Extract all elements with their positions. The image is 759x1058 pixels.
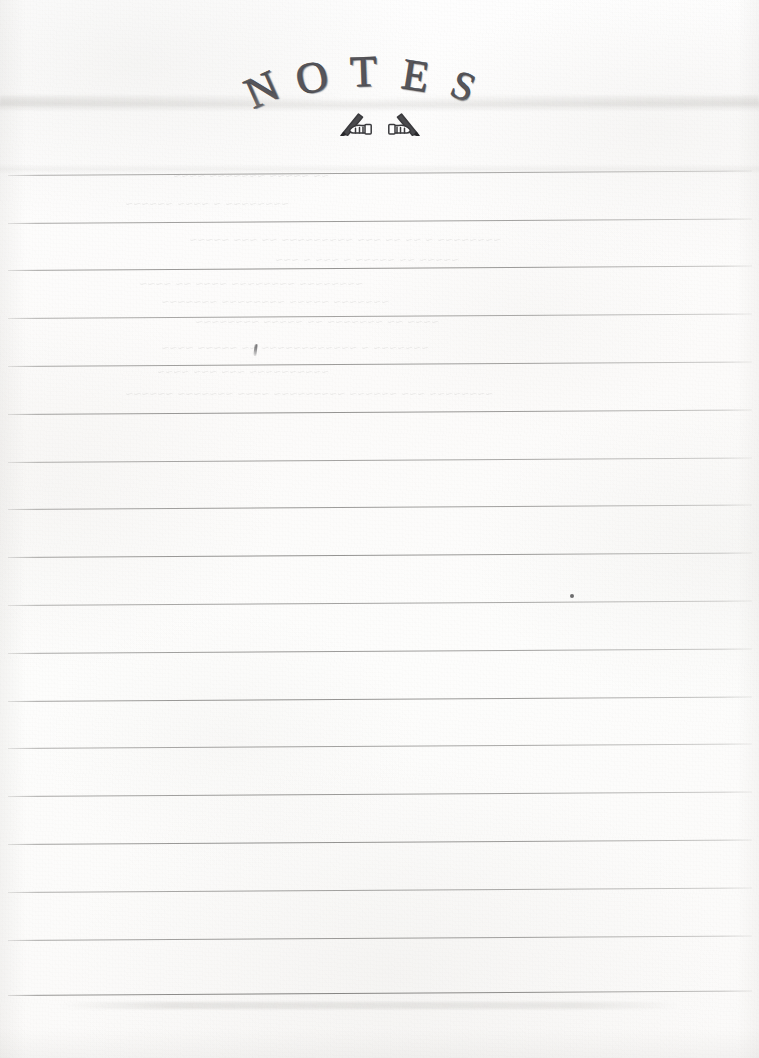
- showthrough-line: ~~~~~ ~~ ~~~~~ ~ ~~~ ~ ~~~: [275, 252, 459, 267]
- paper-grain-texture: [0, 0, 759, 1058]
- showthrough-line: ~~~~~~~~ ~ ~~ ~~ ~~~ ~~~~~~~~~ ~~ ~~~ ~~…: [189, 232, 501, 247]
- ruled-line: [8, 265, 752, 271]
- hand-writing-pen-icon-right: [387, 110, 421, 136]
- bottom-smudge: [60, 1002, 680, 1009]
- title-letter-s: S: [445, 63, 481, 108]
- title-letter-o: O: [291, 53, 332, 103]
- notes-page: ~~ ~~~~~ ~~~~~~~ ~~~~~~~~~~~~ ~ ~~~~ ~~~…: [0, 0, 759, 1058]
- pen-tick-mark: [253, 344, 257, 356]
- ruled-line: [8, 361, 752, 367]
- hand-writing-pen-icon-left: [339, 110, 373, 136]
- ruled-line: [8, 218, 752, 224]
- ruled-line: [8, 648, 752, 654]
- showthrough-line: ~~~~~~~~ ~ ~~~~ ~~~~~~: [125, 196, 289, 211]
- title-letter-t: T: [349, 50, 377, 95]
- ruled-line: [8, 170, 752, 176]
- showthrough-line: ~~~~ ~~ ~~~~~~~ ~~ ~~~~~ ~~~~~~~~: [195, 314, 439, 329]
- scan-band-secondary: [0, 164, 759, 174]
- ink-speck: [570, 594, 574, 598]
- ruled-line: [8, 696, 752, 702]
- title-icons-group: [339, 110, 421, 136]
- ruled-line: [8, 313, 752, 319]
- ruled-line: [8, 990, 752, 996]
- showthrough-line: ~~~~~~~ ~ ~~~~~~~~~~~~ ~~ ~~~~~ ~~~~: [161, 340, 429, 355]
- showthrough-line: ~~~~~~~ ~~~~~ ~~~~~~~~ ~~~~~~~: [161, 294, 389, 309]
- ruled-line: [8, 504, 752, 510]
- title-block: NOTES: [0, 48, 759, 156]
- ruled-line: [8, 457, 752, 463]
- page-edge-shading: [0, 0, 759, 1058]
- showthrough-line: ~~~~~~~~~~ ~~~ ~~~ ~~~~: [157, 364, 329, 379]
- ruled-line: [8, 600, 752, 606]
- paper-background: [0, 0, 759, 1058]
- showthrough-line: ~~ ~~~~~ ~~~~~~~ ~~~~: [173, 168, 329, 183]
- ruled-line: [8, 887, 752, 893]
- showthrough-line: ~~~~~~~~ ~~~ ~~~~~~ ~~~~~~~~~ ~~~~ ~~~~~…: [125, 386, 493, 401]
- ruled-line: [8, 791, 752, 797]
- ruled-line: [8, 743, 752, 749]
- ruled-line: [8, 409, 752, 415]
- title-letter-n: N: [238, 63, 285, 116]
- ruled-line: [8, 935, 752, 941]
- showthrough-line: ~~~~~~~~ ~~~~~~~~ ~~~~ ~~ ~~~~: [139, 276, 363, 291]
- title-letter-e: E: [398, 52, 431, 100]
- ruled-line: [8, 839, 752, 845]
- ruled-line: [8, 552, 752, 558]
- ruled-lines-group: [0, 0, 759, 1058]
- reverse-side-showthrough-text: ~~ ~~~~~ ~~~~~~~ ~~~~~~~~~~~~ ~ ~~~~ ~~~…: [0, 0, 759, 1058]
